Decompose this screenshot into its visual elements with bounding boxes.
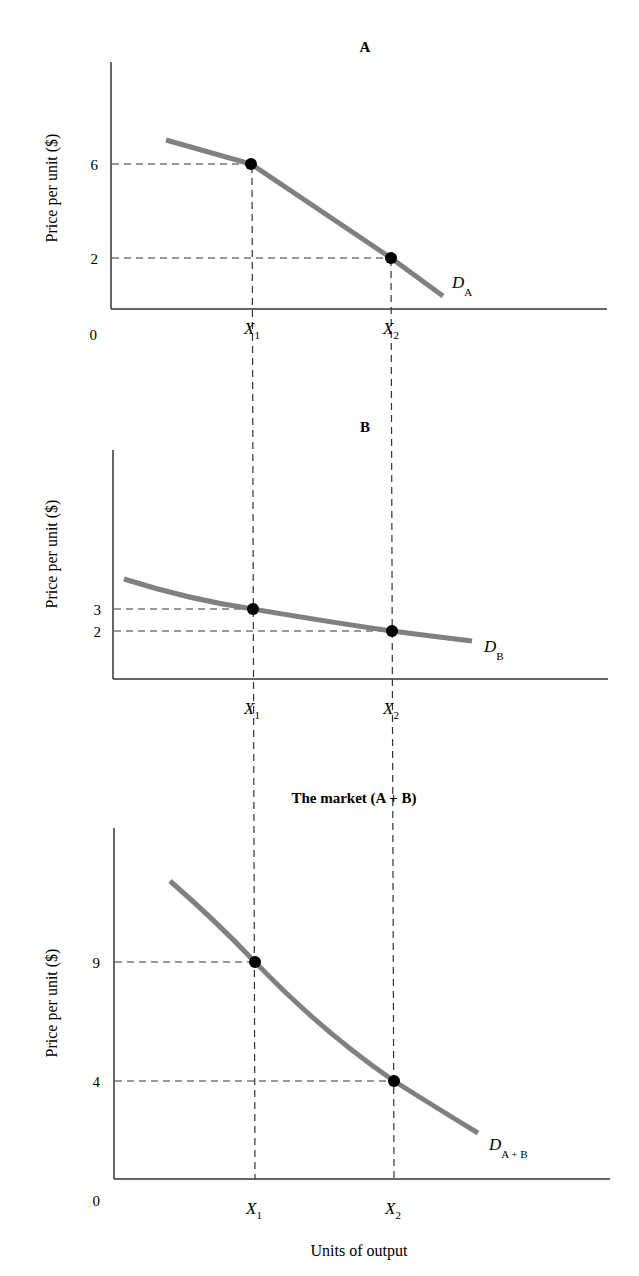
panel-a-curve-label: DA [451,273,472,298]
panel-b-y-tick-2: 2 [94,624,102,640]
panel-market-origin-label: 0 [93,1193,101,1209]
panel-a: A 6 2 0 X1 X2 DA Price per unit ($) [43,39,607,343]
panel-market-point-2 [388,1075,400,1087]
panel-b-demand-curve [124,579,472,641]
panel-b-x1-label: X1 [243,699,260,721]
panel-market-x2-label: X2 [384,1199,401,1221]
panel-market-y-axis-label: Price per unit ($) [43,949,61,1058]
panel-market-demand-curve [170,881,478,1133]
panel-market-title: The market (A + B) [291,790,416,807]
panel-market-curve-label: DA + B [488,1135,528,1160]
panel-a-point-2 [385,252,397,264]
panel-a-y-tick-2: 2 [91,251,99,267]
panel-a-y-tick-1: 6 [91,157,99,173]
panel-a-point-1 [245,158,257,170]
panel-b-y-tick-1: 3 [94,602,102,618]
x-axis-label: Units of output [311,1242,408,1260]
panel-b-x2-label: X2 [382,699,399,721]
panel-b-title: B [360,419,370,435]
panel-market-point-1 [249,956,261,968]
panel-b-point-2 [386,625,398,637]
panel-a-x1-label: X1 [243,319,260,341]
x1-guide-line [252,166,255,1179]
panel-a-x2-label: X2 [382,319,399,341]
panel-market-x1-label: X1 [245,1199,262,1221]
panel-a-origin-label: 0 [90,327,98,343]
panel-market: The market (A + B) 9 4 0 X1 X2 DA + B Pr… [43,790,610,1260]
panel-a-demand-curve [166,140,443,296]
panel-a-title: A [360,39,371,55]
figure-canvas: A 6 2 0 X1 X2 DA Price per unit ($) B [0,0,639,1276]
panel-b: B 3 2 X1 X2 DB Price per unit ($) [43,419,608,721]
panel-b-curve-label: DB [483,637,504,662]
panel-market-y-tick-1: 9 [93,955,101,971]
panel-b-point-1 [247,603,259,615]
panel-b-y-axis-label: Price per unit ($) [43,500,61,609]
panel-market-y-tick-2: 4 [93,1074,101,1090]
panel-a-y-axis-label: Price per unit ($) [43,134,61,243]
